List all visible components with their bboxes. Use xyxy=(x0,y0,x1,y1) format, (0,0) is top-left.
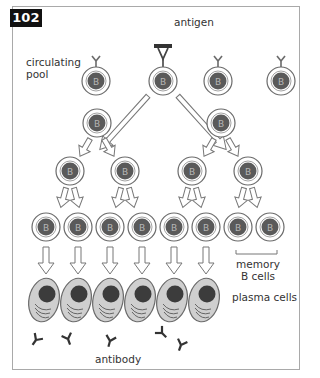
memory-b-cell xyxy=(256,213,284,241)
antibody-icon xyxy=(62,333,75,347)
plasma-cell xyxy=(25,275,63,324)
circulating-b-cell xyxy=(204,56,232,95)
antibody-icon xyxy=(28,333,43,348)
antibody-icon xyxy=(104,335,117,348)
plasma-cell xyxy=(121,275,159,324)
plasma-cells-label: plasma cells xyxy=(232,291,297,303)
circulating-b-cell xyxy=(82,56,110,95)
activated-b-cell xyxy=(149,44,177,95)
plasma-cell xyxy=(89,275,127,324)
plasma-cell xyxy=(153,275,191,324)
circulating-pool-label: circulating pool xyxy=(26,56,81,80)
b-cell xyxy=(178,157,206,185)
b-cell xyxy=(32,213,60,241)
b-cell xyxy=(56,157,84,185)
memory-b-cells-label: memory B cells xyxy=(236,258,280,282)
antibody-icon xyxy=(155,326,170,341)
plasma-cell xyxy=(57,275,95,324)
memory-bracket xyxy=(236,250,277,254)
antigen-icon xyxy=(154,44,172,48)
b-cell xyxy=(160,213,188,241)
b-cell xyxy=(111,157,139,185)
circulating-b-cell xyxy=(267,56,295,95)
b-cell xyxy=(234,157,262,185)
b-cell xyxy=(83,109,111,137)
b-cell xyxy=(96,213,124,241)
memory-b-cell xyxy=(224,213,252,241)
b-cell xyxy=(207,109,235,137)
b-cell xyxy=(192,213,220,241)
plasma-cell xyxy=(185,275,223,324)
antigen-label: antigen xyxy=(174,16,214,28)
antibody-icon xyxy=(174,339,187,353)
antibody-label: antibody xyxy=(95,353,141,365)
b-cell xyxy=(64,213,92,241)
b-cell xyxy=(128,213,156,241)
